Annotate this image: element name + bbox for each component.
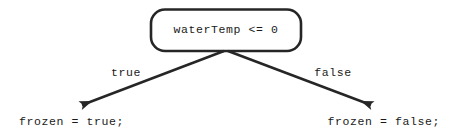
false-statement-label: frozen = false; [300, 116, 440, 128]
flowchart-diagram: waterTemp <= 0 true false frozen = true;… [0, 0, 453, 135]
condition-node-label: waterTemp <= 0 [150, 24, 302, 36]
edge-label-true: true [104, 67, 148, 79]
edge-label-false: false [308, 67, 358, 79]
true-statement-label: frozen = true; [19, 116, 124, 128]
